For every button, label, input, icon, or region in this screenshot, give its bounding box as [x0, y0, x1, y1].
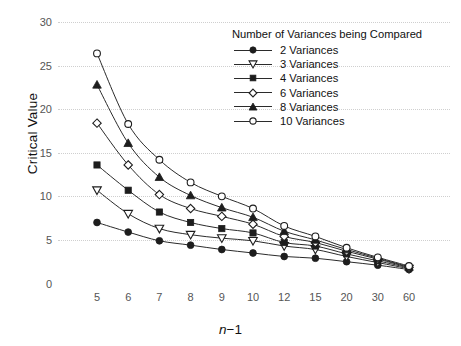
data-point-open-diamond — [186, 204, 194, 212]
data-point-filled-triangle-up — [249, 213, 258, 221]
data-point-open-triangle-down — [93, 187, 102, 195]
legend-item[interactable]: 4 Variances — [232, 71, 457, 85]
data-point-open-circle — [312, 233, 319, 240]
legend-marker-svg — [232, 57, 274, 71]
data-point-open-diamond — [218, 212, 226, 220]
data-point-filled-square — [94, 162, 100, 168]
legend-item-label: 3 Variances — [280, 58, 338, 70]
legend-marker-filled-circle-icon — [232, 43, 274, 57]
legend-entries: 2 Variances3 Variances4 Variances6 Varia… — [232, 43, 457, 128]
legend-item[interactable]: 10 Variances — [232, 114, 457, 128]
data-point-open-circle — [94, 50, 101, 57]
legend-title: Number of Variances being Compared — [232, 28, 457, 40]
legend-item[interactable]: 3 Variances — [232, 57, 457, 71]
data-point-filled-triangle-up — [249, 103, 257, 110]
data-point-filled-square — [156, 209, 162, 215]
data-point-filled-square — [188, 219, 194, 225]
legend-item-label: 2 Variances — [280, 44, 338, 56]
data-point-filled-square — [250, 76, 256, 82]
data-point-filled-square — [250, 230, 256, 236]
data-point-filled-circle — [94, 219, 101, 226]
legend-item-label: 6 Variances — [280, 87, 338, 99]
data-point-open-circle — [125, 121, 132, 128]
chart-figure: Critical Value n−1 051015202530 56789101… — [0, 0, 461, 346]
data-point-filled-circle — [187, 242, 194, 249]
legend-marker-svg — [232, 71, 274, 85]
data-point-filled-square — [125, 187, 131, 193]
legend-marker-open-diamond-icon — [232, 86, 274, 100]
data-point-filled-triangle-up — [186, 191, 195, 199]
legend-marker-svg — [232, 43, 274, 57]
data-point-filled-circle — [156, 237, 163, 244]
data-point-filled-circle — [250, 47, 256, 53]
legend-marker-open-circle-icon — [232, 114, 274, 128]
legend-marker-svg — [232, 86, 274, 100]
data-point-filled-circle — [312, 255, 319, 262]
legend-item-label: 10 Variances — [280, 115, 344, 127]
data-point-open-circle — [406, 263, 413, 270]
data-point-open-triangle-down — [249, 61, 257, 68]
legend-item[interactable]: 2 Variances — [232, 43, 457, 57]
data-point-open-circle — [218, 193, 225, 200]
legend-marker-svg — [232, 100, 274, 114]
data-point-filled-circle — [250, 250, 257, 257]
data-point-filled-triangle-up — [218, 203, 227, 211]
data-point-filled-triangle-up — [124, 139, 133, 147]
data-point-open-diamond — [155, 190, 163, 198]
data-point-open-circle — [343, 244, 350, 251]
legend-item-label: 8 Variances — [280, 101, 338, 113]
legend-marker-filled-triangle-up-icon — [232, 100, 274, 114]
legend-marker-svg — [232, 114, 274, 128]
data-point-filled-circle — [281, 253, 288, 260]
legend-marker-filled-square-icon — [232, 71, 274, 85]
data-point-open-diamond — [93, 119, 101, 127]
data-point-filled-triangle-up — [93, 80, 102, 88]
data-point-open-circle — [281, 223, 288, 230]
data-point-filled-circle — [125, 229, 132, 236]
data-point-filled-circle — [218, 246, 225, 253]
legend-item[interactable]: 6 Variances — [232, 86, 457, 100]
data-point-open-circle — [156, 156, 163, 163]
data-point-open-circle — [374, 254, 381, 261]
legend-item-label: 4 Variances — [280, 72, 338, 84]
data-point-filled-square — [219, 225, 225, 231]
legend-item[interactable]: 8 Variances — [232, 100, 457, 114]
data-point-open-triangle-down — [124, 210, 133, 218]
data-point-open-diamond — [249, 220, 257, 228]
data-point-open-diamond — [249, 89, 257, 97]
legend-marker-open-triangle-down-icon — [232, 57, 274, 71]
data-point-open-circle — [187, 179, 194, 186]
legend: Number of Variances being Compared 2 Var… — [232, 28, 457, 128]
data-point-open-circle — [250, 118, 256, 124]
data-point-open-circle — [250, 205, 257, 212]
